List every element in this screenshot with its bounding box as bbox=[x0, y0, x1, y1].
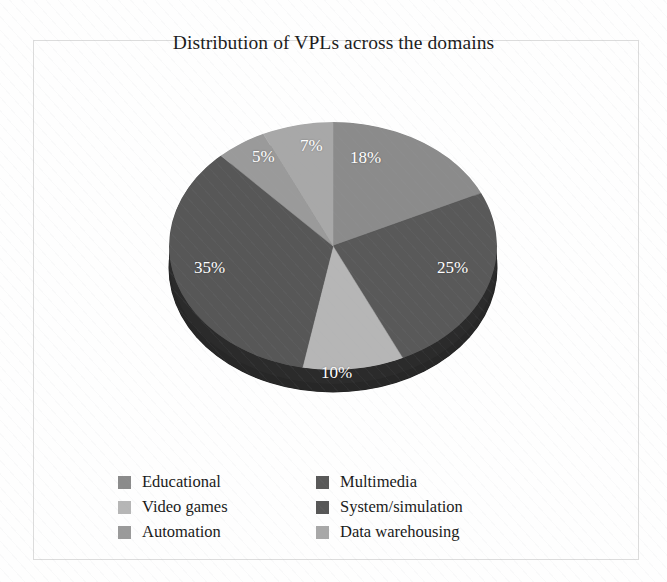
legend-item[interactable]: Video games bbox=[118, 495, 228, 520]
pie-slice-value-label: 5% bbox=[252, 147, 275, 167]
pie-slice-value-label: 25% bbox=[437, 258, 468, 278]
pie-top-face bbox=[169, 122, 497, 370]
legend-color-swatch bbox=[316, 501, 329, 514]
legend-item[interactable]: Multimedia bbox=[316, 470, 463, 495]
legend-color-swatch bbox=[118, 476, 131, 489]
legend-column-right: MultimediaSystem/simulationData warehous… bbox=[316, 470, 463, 545]
legend-item[interactable]: Data warehousing bbox=[316, 520, 463, 545]
legend-item-label: Automation bbox=[142, 524, 221, 541]
legend-item-label: Data warehousing bbox=[340, 524, 460, 541]
pie-slice-value-label: 35% bbox=[194, 258, 225, 278]
legend-item-label: Video games bbox=[142, 499, 228, 516]
pie-slice-value-label: 7% bbox=[300, 136, 323, 156]
legend-item[interactable]: Automation bbox=[118, 520, 228, 545]
pie-slices-svg bbox=[169, 122, 497, 370]
legend-item[interactable]: Educational bbox=[118, 470, 228, 495]
chart-title: Distribution of VPLs across the domains bbox=[0, 32, 667, 54]
legend-color-swatch bbox=[316, 526, 329, 539]
legend-column-left: EducationalVideo gamesAutomation bbox=[118, 470, 228, 545]
legend-color-swatch bbox=[316, 476, 329, 489]
pie-slice-value-label: 10% bbox=[321, 363, 352, 383]
legend-item-label: Multimedia bbox=[340, 474, 417, 491]
legend-item-label: System/simulation bbox=[340, 499, 463, 516]
legend-color-swatch bbox=[118, 526, 131, 539]
legend-item-label: Educational bbox=[142, 474, 221, 491]
pie-slice-value-label: 18% bbox=[350, 148, 381, 168]
legend-color-swatch bbox=[118, 501, 131, 514]
chart-figure: Distribution of VPLs across the domains … bbox=[0, 0, 667, 582]
legend-item[interactable]: System/simulation bbox=[316, 495, 463, 520]
